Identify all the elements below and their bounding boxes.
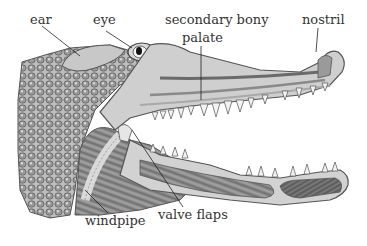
label-valve-flaps: valve flaps	[158, 208, 228, 222]
diagram: ear eye secondary bony palate nostril wi…	[0, 0, 367, 246]
label-nostril: nostril	[302, 13, 345, 27]
label-palate-line2: palate	[182, 31, 223, 45]
label-ear: ear	[30, 13, 52, 27]
eye-pupil	[136, 47, 142, 55]
label-palate-line1: secondary bony	[165, 13, 268, 27]
label-eye: eye	[93, 13, 116, 27]
label-windpipe: windpipe	[85, 214, 145, 228]
